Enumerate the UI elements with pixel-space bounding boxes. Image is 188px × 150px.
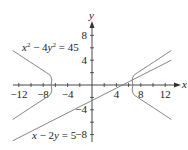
x-axis-label: x [181, 78, 187, 90]
hyperbola-equation-label: x2 − 4y2 = 45 [21, 41, 79, 53]
line-equation-label: x − 2y = 5 [31, 129, 77, 141]
x-axis-arrow-icon [174, 83, 181, 88]
x-tick-label: 4 [114, 88, 120, 100]
x-tick-label: −8 [37, 88, 49, 100]
x-tick-label: 12 [160, 88, 171, 100]
y-tick-label: −8 [75, 128, 87, 140]
y-axis-label: y [88, 9, 94, 21]
x-tick-label: −4 [62, 88, 74, 100]
y-tick-label: −4 [75, 103, 87, 115]
y-tick-label: 4 [82, 54, 88, 66]
graph: −12 −8 −4 4 8 12 8 4 −4 −8 x y x2 − 4y2 … [0, 0, 188, 150]
y-tick-label: 8 [82, 29, 88, 41]
x-tick-label: −12 [10, 88, 27, 100]
y-axis-arrow-icon [90, 21, 95, 28]
